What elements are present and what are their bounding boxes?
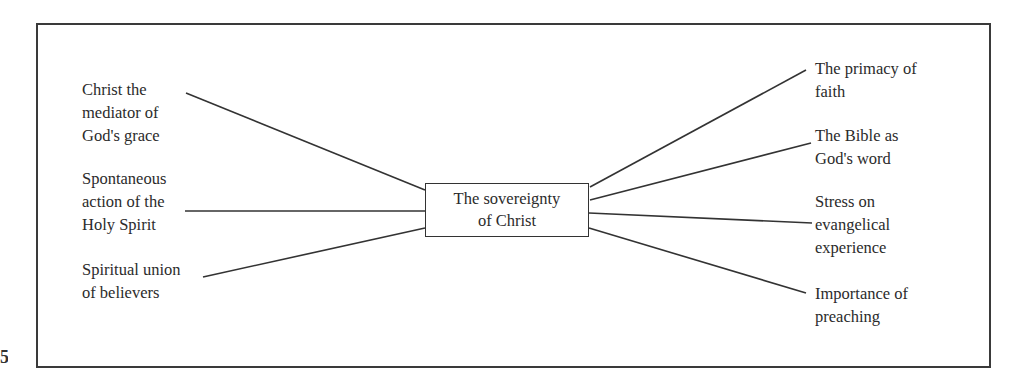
- right-node-primacy-of-faith: The primacy of faith: [815, 57, 917, 103]
- central-concept-box: The sovereignty of Christ: [425, 183, 589, 237]
- node-line: Christ the: [82, 78, 160, 101]
- node-line: evangelical: [815, 213, 890, 236]
- center-line-1: The sovereignty: [426, 188, 588, 210]
- connector-left-1: [186, 93, 425, 190]
- node-line: Importance of: [815, 282, 908, 305]
- node-line: experience: [815, 236, 890, 259]
- node-line: mediator of: [82, 101, 160, 124]
- node-line: Stress on: [815, 190, 890, 213]
- node-line: The Bible as: [815, 124, 898, 147]
- right-node-evangelical-experience: Stress on evangelical experience: [815, 190, 890, 259]
- node-line: action of the: [82, 190, 166, 213]
- node-line: of believers: [82, 281, 181, 304]
- node-line: preaching: [815, 305, 908, 328]
- right-node-bible-gods-word: The Bible as God's word: [815, 124, 898, 170]
- connector-right-2: [590, 143, 811, 200]
- node-line: Holy Spirit: [82, 213, 166, 236]
- connector-right-3: [589, 213, 812, 223]
- right-node-importance-of-preaching: Importance of preaching: [815, 282, 908, 328]
- node-line: faith: [815, 80, 917, 103]
- node-line: The primacy of: [815, 57, 917, 80]
- node-line: God's word: [815, 147, 898, 170]
- connector-right-1: [590, 70, 806, 187]
- connector-right-4: [589, 228, 806, 293]
- node-line: God's grace: [82, 124, 160, 147]
- left-node-christ-mediator: Christ the mediator of God's grace: [82, 78, 160, 147]
- left-node-spiritual-union: Spiritual union of believers: [82, 258, 181, 304]
- node-line: Spontaneous: [82, 167, 166, 190]
- connector-left-3: [203, 228, 425, 277]
- left-node-holy-spirit: Spontaneous action of the Holy Spirit: [82, 167, 166, 236]
- center-line-2: of Christ: [426, 210, 588, 232]
- node-line: Spiritual union: [82, 258, 181, 281]
